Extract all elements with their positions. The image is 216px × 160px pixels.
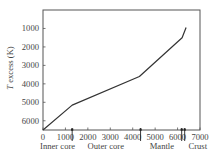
temperature-line — [43, 28, 186, 131]
y-tick-label: 5000 — [22, 97, 39, 107]
boundary-marker-head — [184, 129, 186, 131]
boundary-marker-head — [139, 129, 141, 131]
x-tick-label: 2000 — [79, 132, 96, 142]
region-label: Outer core — [88, 141, 125, 151]
y-tick-label: 4000 — [22, 79, 39, 89]
region-label: Crust — [188, 141, 207, 151]
x-tick-label: 7000 — [191, 132, 208, 142]
y-tick-label: 6000 — [22, 116, 39, 126]
temperature-excess-chart: 1000200030004000500060000100020003000400… — [0, 0, 216, 160]
x-tick-label: 3000 — [102, 132, 119, 142]
region-label: Mantle — [150, 141, 175, 151]
x-tick-label: 0 — [41, 132, 45, 142]
plot-frame — [43, 10, 200, 130]
x-tick-label: 1000 — [57, 132, 74, 142]
y-axis-title: T excess (K) — [5, 46, 15, 90]
x-tick-label: 6000 — [169, 132, 186, 142]
boundary-marker-head — [181, 129, 183, 131]
x-tick-label: 4000 — [124, 132, 141, 142]
y-tick-label: 1000 — [22, 23, 39, 33]
boundary-marker-head — [71, 129, 73, 131]
plot-area: 1000200030004000500060000100020003000400… — [5, 10, 209, 151]
region-label: Inner core — [40, 141, 75, 151]
y-tick-label: 2000 — [22, 42, 39, 52]
x-tick-label: 5000 — [147, 132, 164, 142]
y-tick-label: 3000 — [22, 60, 39, 70]
